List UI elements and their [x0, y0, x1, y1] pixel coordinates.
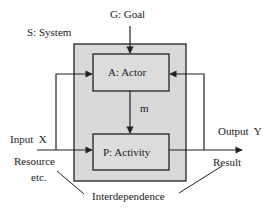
- resource-etc-label: etc.: [31, 171, 47, 183]
- system-diagram: G: Goal S: System A: Actor m P: Activity…: [0, 0, 277, 215]
- resource-label: Resource: [14, 155, 55, 167]
- activity-label: P: Activity: [103, 146, 151, 158]
- output-label: Output Y: [218, 125, 262, 137]
- interdependence-label: Interdependence: [92, 190, 165, 202]
- goal-label: G: Goal: [110, 8, 145, 20]
- input-label: Input X: [10, 133, 47, 145]
- system-label: S: System: [27, 26, 72, 38]
- result-label: Result: [213, 156, 241, 168]
- actor-label: A: Actor: [108, 66, 147, 78]
- message-label: m: [140, 102, 149, 114]
